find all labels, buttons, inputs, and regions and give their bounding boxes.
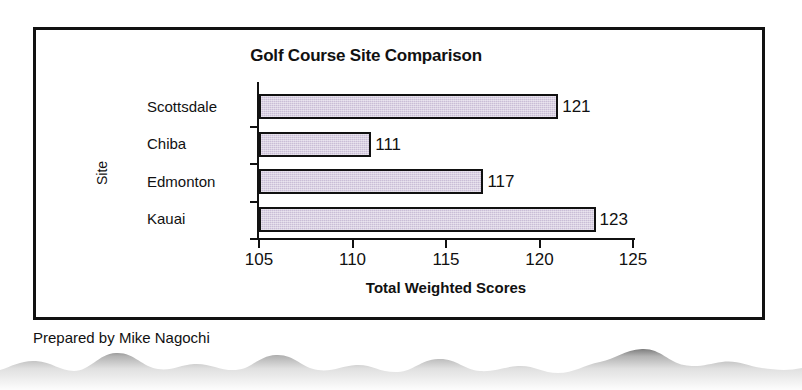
category-tick	[250, 126, 259, 128]
y-axis-title: Site	[94, 161, 110, 185]
bar-value-label: 117	[483, 169, 514, 194]
bar[interactable]	[259, 132, 371, 157]
category-label: Edmonton	[147, 173, 251, 191]
value-tick	[352, 240, 354, 248]
bar-value-label: 121	[558, 94, 590, 119]
value-tick-label: 125	[619, 250, 647, 270]
scanned-page: Golf Course Site Comparison Site 1211111…	[0, 0, 802, 390]
value-tick	[258, 240, 260, 248]
page-caption: Prepared by Mike Nagochi	[33, 329, 210, 346]
bar-value-label: 111	[371, 132, 401, 157]
value-tick	[632, 240, 634, 248]
bar-value-label: 123	[596, 207, 628, 232]
value-tick	[539, 240, 541, 248]
bar-row: 111	[259, 126, 633, 164]
x-axis-title: Total Weighted Scores	[259, 279, 633, 296]
plot-area: 121111117123 ScottsdaleChibaEdmontonKaua…	[259, 88, 633, 238]
bar-row: 123	[259, 201, 633, 239]
chart-frame: Golf Course Site Comparison Site 1211111…	[33, 27, 765, 320]
category-label: Kauai	[147, 210, 251, 228]
bar[interactable]	[259, 207, 596, 232]
bar[interactable]	[259, 94, 558, 119]
bar-row: 117	[259, 163, 633, 201]
value-tick	[445, 240, 447, 248]
value-tick-label: 110	[339, 250, 366, 270]
category-label: Scottsdale	[147, 98, 251, 116]
chart-title: Golf Course Site Comparison	[3, 46, 729, 66]
category-tick	[250, 201, 259, 203]
value-tick-label: 105	[245, 250, 273, 270]
bar-row: 121	[259, 88, 633, 126]
category-tick	[250, 163, 259, 165]
torn-page-edge-decoration	[0, 344, 802, 390]
value-tick-label: 115	[432, 250, 459, 270]
value-tick-label: 120	[525, 250, 553, 270]
category-label: Chiba	[147, 135, 251, 153]
bar[interactable]	[259, 169, 483, 194]
